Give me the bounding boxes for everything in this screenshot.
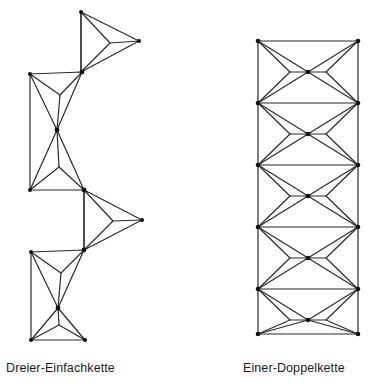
caption-dreier-einfachkette: Dreier-Einfachkette (6, 360, 115, 376)
vertex (137, 39, 141, 43)
vertex (56, 306, 61, 311)
tetrahedron-6-up (31, 308, 85, 340)
tetrahedron-3-up (30, 130, 84, 190)
vertex (82, 248, 87, 253)
vertex (356, 39, 361, 44)
vertex (83, 338, 87, 342)
figure-container: Dreier-Einfachkette Einer-Doppelkette (0, 0, 382, 383)
vertex (140, 218, 144, 222)
vertex (79, 10, 83, 14)
left-chain-dreier-einfachkette (30, 12, 142, 340)
vertex (28, 188, 32, 192)
vertex (356, 287, 361, 292)
tetrahedron-2-down (30, 72, 82, 130)
vertex (256, 39, 261, 44)
vertex (29, 250, 33, 254)
vertex (256, 225, 261, 230)
vertex (55, 128, 60, 133)
vertex (256, 332, 261, 337)
caption-einer-doppelkette: Einer-Doppelkette (243, 360, 345, 376)
vertex (306, 256, 311, 261)
vertex (356, 163, 361, 168)
vertex (356, 332, 361, 337)
vertex (82, 188, 87, 193)
vertex (306, 70, 311, 75)
tetrahedron-4-right (84, 190, 142, 250)
vertex (306, 194, 311, 199)
tetrahedron-5-down (31, 250, 84, 308)
right-chain-einer-doppelkette (258, 41, 358, 334)
structure-diagram (0, 0, 382, 383)
tetrahedron-1-right (81, 12, 139, 72)
vertex (256, 101, 261, 106)
vertex (29, 338, 33, 342)
right-chain-vertices (256, 39, 361, 337)
vertex (306, 318, 311, 323)
vertex (356, 225, 361, 230)
vertex (256, 287, 261, 292)
vertex (356, 101, 361, 106)
left-chain-vertices (28, 10, 144, 342)
vertex (256, 163, 261, 168)
vertex (80, 70, 85, 75)
vertex (28, 72, 32, 76)
vertex (306, 132, 311, 137)
doppelkette-unit-5 (258, 289, 358, 334)
